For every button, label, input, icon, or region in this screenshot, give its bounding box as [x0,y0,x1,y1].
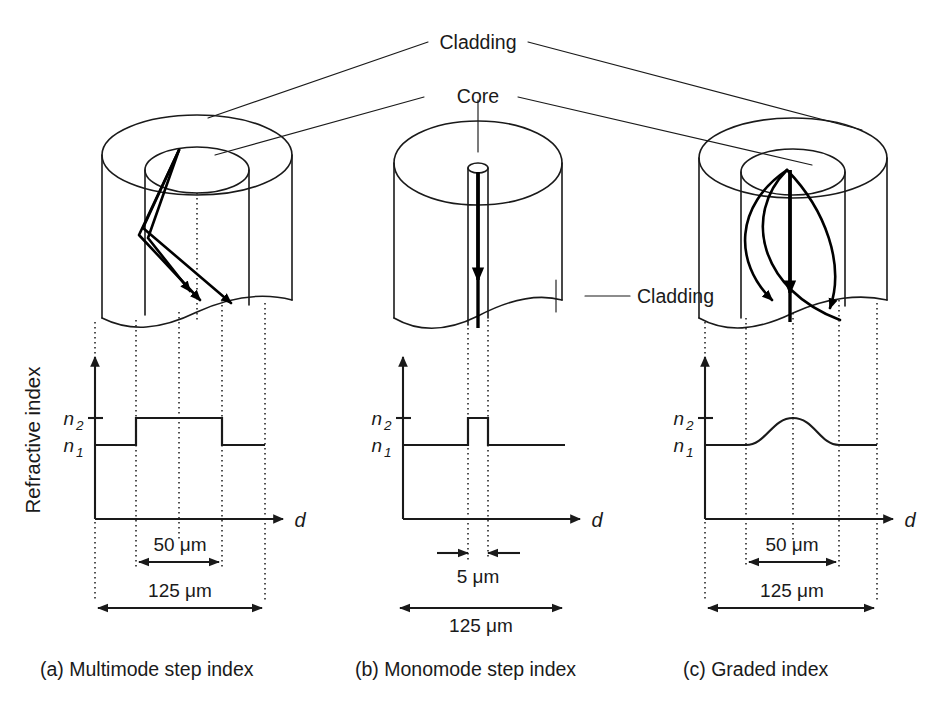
panel-a-core-diameter-label: 50 μm [153,534,206,555]
panel-a-graph [88,300,283,600]
panel-b-core-diameter-label: 5 μm [457,566,500,587]
panel-a-n1-subscript: 1 [76,445,84,460]
panel-c-d-axis-label: d [904,509,916,531]
panel-b-graph [396,320,580,560]
panel-c-cladding-diameter-label: 125 μm [760,580,824,601]
panel-b-d-axis-label: d [591,509,603,531]
panel-b-n2-subscript: 2 [383,418,392,433]
fiber-diagram-svg: Cladding Core Cladding Refractive index … [0,0,940,707]
cladding-side-label: Cladding [637,285,714,307]
core-top-label: Core [457,85,499,107]
panel-c-caption: (c) Graded index [683,658,828,680]
panel-a-caption: (a) Multimode step index [40,658,254,680]
panel-c-light-rays [745,170,840,322]
cladding-top-label: Cladding [440,31,517,53]
panel-a-n1-label: n [63,435,74,456]
panel-a-light-rays [139,150,231,303]
panel-b-caption: (b) Monomode step index [355,658,576,680]
text-labels: Cladding Core Cladding Refractive index … [21,31,916,680]
panel-c-graph [698,300,893,600]
panel-b-n2-label: n [371,408,382,429]
panel-c-fiber-cylinder [699,118,887,328]
panel-a-n2-subscript: 2 [75,418,84,433]
panel-a-n2-label: n [63,408,74,429]
panel-a-d-axis-label: d [294,509,306,531]
panel-b-cladding-diameter-label: 125 μm [449,615,513,636]
panel-b-n1-label: n [371,435,382,456]
panel-c-n1-subscript: 1 [686,445,694,460]
refractive-index-axis-label: Refractive index [21,366,44,514]
panel-c-n1-label: n [673,435,684,456]
panel-c-n2-label: n [673,408,684,429]
optical-fiber-types-figure: Cladding Core Cladding Refractive index … [0,0,940,707]
panel-c-n2-subscript: 2 [685,418,694,433]
callout-leader-lines [208,42,862,312]
panel-b-n1-subscript: 1 [384,445,392,460]
panel-c-core-diameter-label: 50 μm [765,534,818,555]
panel-a-cladding-diameter-label: 125 μm [148,580,212,601]
